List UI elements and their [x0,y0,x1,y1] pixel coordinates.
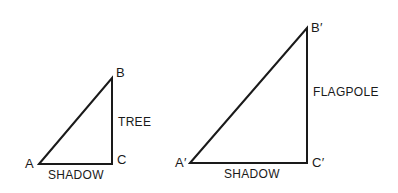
flagpole-triangle [190,28,307,163]
flagpole-side-label: FLAGPOLE [313,86,379,98]
vertex-a-label: A [25,157,34,170]
tree-side-label: TREE [118,116,151,128]
tree-shadow-label: SHADOW [48,169,104,181]
tree-triangle [39,78,112,164]
vertex-b-prime-label: B′ [311,21,323,34]
vertex-c-label: C [117,153,127,166]
vertex-c-prime-label: C′ [312,156,324,169]
vertex-b-label: B [116,66,125,79]
vertex-a-prime-label: A′ [175,156,187,169]
flagpole-shadow-label: SHADOW [224,168,280,180]
